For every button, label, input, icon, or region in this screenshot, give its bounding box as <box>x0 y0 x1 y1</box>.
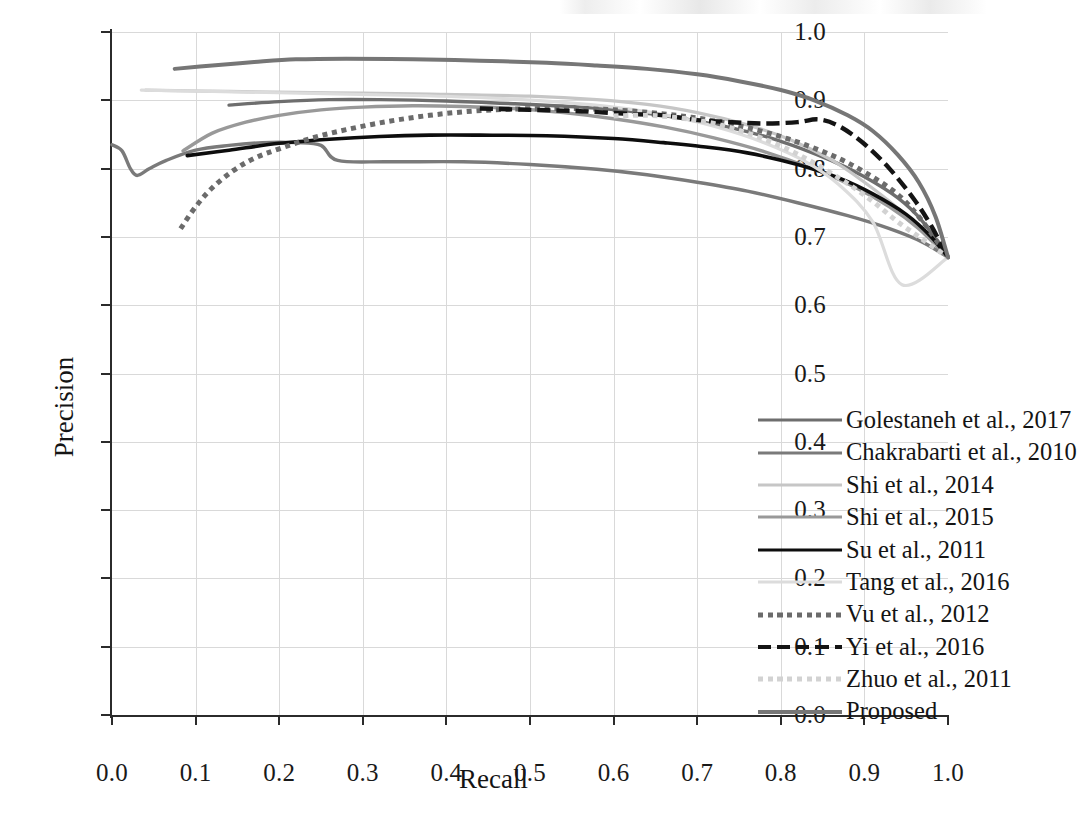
y-axis-tick <box>101 373 112 375</box>
legend-label: Tang et al., 2016 <box>846 570 1010 595</box>
x-axis-tick <box>195 715 197 725</box>
legend-item[interactable]: Chakrabarti et al., 2010 <box>758 436 1081 468</box>
legend-item[interactable]: Vu et al., 2012 <box>758 598 1081 630</box>
legend-item[interactable]: Tang et al., 2016 <box>758 566 1081 598</box>
y-axis-tick <box>101 577 112 579</box>
legend-line-swatch <box>758 475 842 495</box>
legend-item[interactable]: Shi et al., 2014 <box>758 469 1081 501</box>
series-line <box>187 135 948 257</box>
legend-item[interactable]: Golestaneh et al., 2017 <box>758 404 1081 436</box>
series-line <box>181 108 948 257</box>
legend-line-swatch <box>758 507 842 527</box>
x-axis-tick <box>696 715 698 725</box>
legend-item[interactable]: Su et al., 2011 <box>758 534 1081 566</box>
y-axis-tick <box>101 99 112 101</box>
legend-label: Vu et al., 2012 <box>846 602 989 627</box>
legend-item[interactable]: Shi et al., 2015 <box>758 501 1081 533</box>
legend-line-swatch <box>758 410 842 430</box>
legend-line-swatch <box>758 572 842 592</box>
y-axis-tick <box>101 646 112 648</box>
x-axis-title: Recall <box>0 764 987 795</box>
x-tick-label: 0.0 <box>96 759 128 787</box>
x-tick-label: 0.3 <box>347 759 379 787</box>
x-axis-tick <box>278 715 280 725</box>
x-tick-label: 0.7 <box>681 759 713 787</box>
legend-label: Su et al., 2011 <box>846 538 986 563</box>
y-axis-title: Precision <box>49 356 80 457</box>
y-axis-tick <box>101 31 112 33</box>
x-tick-label: 0.1 <box>180 759 212 787</box>
legend-label: Yi et al., 2016 <box>846 635 984 660</box>
y-axis-tick <box>101 304 112 306</box>
legend-item[interactable]: Yi et al., 2016 <box>758 631 1081 663</box>
legend-item[interactable]: Zhuo et al., 2011 <box>758 663 1081 695</box>
legend-line-swatch <box>758 669 842 689</box>
y-axis-tick <box>101 509 112 511</box>
x-tick-label: 1.0 <box>932 759 964 787</box>
legend-label: Chakrabarti et al., 2010 <box>846 440 1077 465</box>
x-tick-label: 0.6 <box>598 759 630 787</box>
x-axis-tick <box>445 715 447 725</box>
x-axis-tick <box>613 715 615 725</box>
legend-label: Zhuo et al., 2011 <box>846 667 1012 692</box>
x-tick-label: 0.2 <box>263 759 295 787</box>
legend-label: Proposed <box>846 699 937 724</box>
x-axis-tick <box>362 715 364 725</box>
legend-line-swatch <box>758 605 842 625</box>
y-axis-tick <box>101 236 112 238</box>
chart-legend: Golestaneh et al., 2017Chakrabarti et al… <box>758 404 1081 728</box>
y-axis-tick <box>101 441 112 443</box>
legend-label: Shi et al., 2015 <box>846 505 994 530</box>
plot-area: 0.00.10.20.30.40.50.60.70.80.91.0 0.00.1… <box>112 32 948 715</box>
legend-label: Shi et al., 2014 <box>846 473 994 498</box>
legend-line-swatch <box>758 443 842 463</box>
legend-line-swatch <box>758 637 842 657</box>
x-tick-label: 0.9 <box>848 759 880 787</box>
x-tick-label: 0.5 <box>514 759 546 787</box>
legend-line-swatch <box>758 702 842 722</box>
x-axis-tick <box>529 715 531 725</box>
x-tick-label: 0.4 <box>430 759 462 787</box>
legend-line-swatch <box>758 540 842 560</box>
y-axis-tick <box>101 168 112 170</box>
legend-label: Golestaneh et al., 2017 <box>846 408 1071 433</box>
legend-item[interactable]: Proposed <box>758 696 1081 728</box>
scan-noise-artifact <box>0 0 987 14</box>
x-axis-tick <box>111 715 113 725</box>
x-tick-label: 0.8 <box>765 759 797 787</box>
series-line <box>112 142 948 257</box>
